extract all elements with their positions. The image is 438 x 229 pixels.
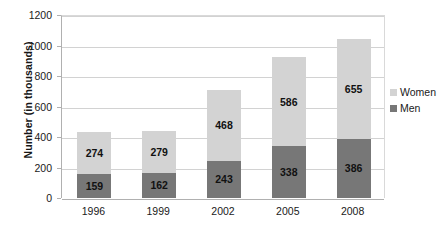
x-axis-tick-label: 1996 (58, 205, 128, 217)
stacked-bar-chart: Number (in thousands) 020040060080010001… (0, 0, 438, 229)
bar-stack: 274159 (77, 132, 111, 198)
bar-value-label: 274 (86, 148, 104, 159)
legend-swatch-icon (390, 89, 397, 96)
bar-value-label: 586 (280, 97, 298, 108)
bar-value-label: 338 (280, 167, 298, 178)
bar-segment-men: 243 (207, 161, 241, 198)
x-axis-tick-label: 1999 (123, 205, 193, 217)
bar-value-label: 159 (86, 181, 104, 192)
bar-segment-men: 159 (77, 174, 111, 198)
bar-value-label: 243 (215, 174, 233, 185)
bar-value-label: 386 (345, 163, 363, 174)
bar-segment-men: 162 (142, 173, 176, 198)
y-axis-tick-label: 600 (0, 101, 52, 113)
legend-swatch-icon (390, 105, 397, 112)
legend-item-women[interactable]: Women (390, 84, 438, 100)
y-axis-tick-label: 800 (0, 70, 52, 82)
x-axis-tick-label: 2002 (188, 205, 258, 217)
bar-value-label: 655 (345, 84, 363, 95)
bar-stack: 468243 (207, 90, 241, 198)
bar-segment-women: 586 (272, 57, 306, 146)
bar-stack: 279162 (142, 131, 176, 198)
bar-segment-men: 338 (272, 146, 306, 198)
bar-segment-women: 274 (77, 132, 111, 174)
gridline (62, 16, 384, 17)
bar-stack: 655386 (337, 39, 371, 198)
gridline (62, 199, 384, 200)
x-axis-tick-label: 2005 (253, 205, 323, 217)
x-axis-tick-label: 2008 (318, 205, 388, 217)
bar-segment-women: 468 (207, 90, 241, 161)
legend-item-men[interactable]: Men (390, 100, 438, 116)
bar-segment-women: 655 (337, 39, 371, 139)
bar-value-label: 162 (150, 180, 168, 191)
y-axis-tick-label: 1000 (0, 40, 52, 52)
y-axis-tick-label: 1200 (0, 9, 52, 21)
y-axis-tick-label: 400 (0, 131, 52, 143)
bar-value-label: 279 (150, 147, 168, 158)
bar-segment-women: 279 (142, 131, 176, 174)
legend-label: Women (400, 86, 436, 98)
bar-value-label: 468 (215, 120, 233, 131)
y-axis-tick-label: 0 (0, 192, 52, 204)
legend-label: Men (400, 102, 420, 114)
plot-area: 274159279162468243586338655386 (61, 15, 385, 198)
y-axis-tick-mark (57, 198, 61, 199)
bar-segment-men: 386 (337, 139, 371, 198)
y-axis-tick-label: 200 (0, 162, 52, 174)
legend: WomenMen (390, 84, 438, 116)
bar-stack: 586338 (272, 57, 306, 198)
